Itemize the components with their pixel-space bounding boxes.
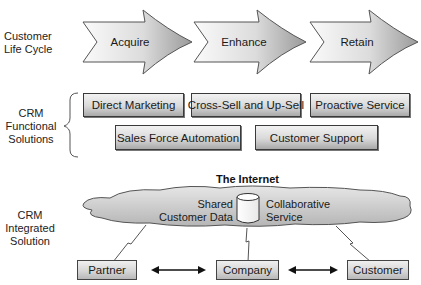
solution-proactive-service: Proactive Service: [310, 93, 410, 117]
row-label-functional: CRM Functional Solutions: [2, 107, 60, 146]
connector-customer: [336, 226, 371, 262]
solution-direct-marketing: Direct Marketing: [83, 93, 184, 117]
node-customer: Customer: [347, 260, 409, 280]
stage-retain-label: Retain: [340, 36, 373, 48]
connector-company: [246, 228, 249, 262]
bidirectional-arrow-icon: [151, 266, 206, 274]
database-icon: [237, 194, 259, 224]
solution-cross-sell-up-sell: Cross-Sell and Up-Sell: [191, 93, 301, 117]
node-partner: Partner: [77, 260, 137, 280]
shared-customer-data-label: Shared Customer Data: [155, 198, 233, 224]
stage-acquire-label: Acquire: [111, 36, 150, 48]
row-label-life-cycle: Customer Life Cycle: [4, 30, 64, 56]
row-label-integrated: CRM Integrated Solution: [0, 209, 60, 248]
connector-partner: [113, 225, 146, 262]
collaborative-service-label: Collaborative Service: [266, 198, 356, 224]
bidirectional-arrow-icon: [288, 266, 338, 274]
solution-customer-support: Customer Support: [255, 125, 378, 150]
curly-brace-icon: [64, 93, 78, 157]
solution-sales-force-automation: Sales Force Automation: [115, 125, 241, 150]
internet-title: The Internet: [216, 173, 279, 185]
stage-enhance-label: Enhance: [221, 36, 266, 48]
node-company: Company: [216, 260, 279, 280]
